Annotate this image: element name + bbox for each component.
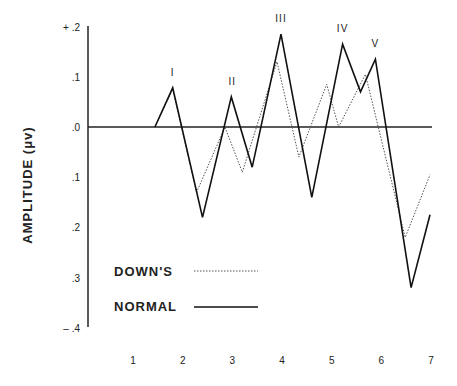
peak-label: III: [275, 13, 286, 24]
y-tick-label: .0: [72, 122, 81, 133]
x-tick-label: 2: [180, 355, 186, 366]
x-tick-label: 4: [279, 355, 285, 366]
y-tick-label: .1: [72, 172, 81, 183]
y-tick-label: .1: [72, 72, 81, 83]
y-tick-label: .2: [72, 222, 81, 233]
peak-label: V: [372, 38, 380, 49]
series-normal: [155, 34, 430, 288]
y-axis-label: AMPLITUDE (μv): [20, 126, 35, 243]
x-tick-label: 5: [329, 355, 335, 366]
x-ticks: 1234567: [130, 355, 434, 366]
x-tick-label: 1: [130, 355, 136, 366]
x-tick-label: 7: [428, 355, 434, 366]
legend-label-downs: DOWN'S: [114, 264, 173, 279]
peak-label: IV: [337, 23, 348, 34]
y-tick-label: – .4: [63, 323, 80, 334]
peak-label: II: [229, 76, 237, 87]
chart: + .2.1.0.1.2.3– .4 1234567 AMPLITUDE (μv…: [0, 0, 457, 386]
peak-labels: IIIIIIIVV: [171, 13, 379, 87]
legend-label-normal: NORMAL: [114, 299, 177, 314]
peak-label: I: [171, 67, 175, 78]
y-tick-label: + .2: [63, 22, 80, 33]
legend: DOWN'S NORMAL: [114, 264, 258, 314]
x-tick-label: 3: [230, 355, 236, 366]
y-ticks: + .2.1.0.1.2.3– .4: [63, 22, 80, 334]
x-tick-label: 6: [379, 355, 385, 366]
y-tick-label: .3: [72, 273, 81, 284]
